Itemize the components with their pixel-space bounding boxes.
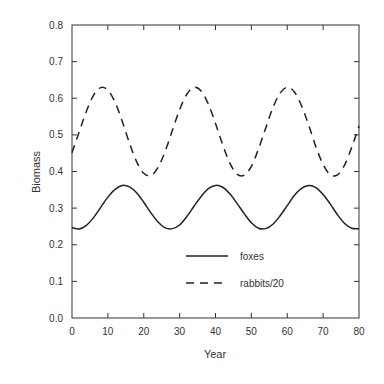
- x-tick-label: 0: [69, 326, 75, 337]
- x-tick-label: 20: [138, 326, 150, 337]
- series-group: [72, 87, 359, 229]
- x-tick-label: 10: [102, 326, 114, 337]
- y-tick-label: 0.2: [49, 239, 63, 250]
- x-tick-label: 80: [353, 326, 365, 337]
- series-foxes-line: [72, 185, 359, 229]
- x-tick-label: 50: [246, 326, 258, 337]
- x-axis-title: Year: [204, 348, 227, 360]
- legend-label-rabbits: rabbits/20: [240, 278, 284, 289]
- y-tick-label: 0.6: [49, 93, 63, 104]
- y-tick-label: 0.4: [49, 166, 63, 177]
- x-tick-label: 60: [282, 326, 294, 337]
- y-tick-label: 0.7: [49, 56, 63, 67]
- plot-frame: [72, 25, 359, 318]
- x-tick-label: 30: [174, 326, 186, 337]
- y-axis: 0.00.10.20.30.40.50.60.70.8: [49, 20, 359, 324]
- y-tick-label: 0.8: [49, 20, 63, 31]
- biomass-chart: 0.00.10.20.30.40.50.60.70.8 010203040506…: [0, 0, 384, 384]
- x-axis: 01020304050607080: [69, 25, 365, 337]
- x-tick-label: 70: [318, 326, 330, 337]
- x-tick-label: 40: [210, 326, 222, 337]
- y-tick-label: 0.0: [49, 313, 63, 324]
- legend-label-foxes: foxes: [240, 251, 264, 262]
- y-tick-label: 0.3: [49, 203, 63, 214]
- y-tick-label: 0.5: [49, 129, 63, 140]
- series-rabbits-20-line: [72, 87, 359, 176]
- legend: foxes rabbits/20: [186, 251, 284, 289]
- y-axis-title: Biomass: [30, 150, 42, 193]
- y-tick-label: 0.1: [49, 276, 63, 287]
